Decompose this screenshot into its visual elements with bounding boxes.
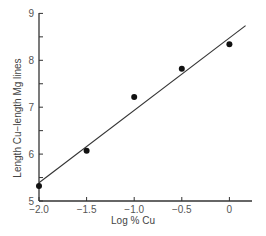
x-tick-label: 0	[227, 204, 233, 215]
y-tick-label: 8	[28, 55, 34, 66]
data-point	[36, 183, 42, 189]
y-ticks: 56789	[28, 8, 43, 207]
x-tick-label: −2.0	[29, 204, 49, 215]
x-tick-label: −1.5	[77, 204, 97, 215]
data-point	[131, 94, 137, 100]
data-point	[179, 66, 185, 72]
x-tick-label: −0.5	[172, 204, 192, 215]
axes	[39, 13, 252, 201]
x-tick-label: −1.0	[124, 204, 144, 215]
fit-line	[39, 26, 246, 183]
x-axis-label: Log % Cu	[111, 215, 155, 226]
x-ticks: −2.0−1.5−1.0−0.50	[29, 197, 232, 215]
y-tick-label: 9	[28, 8, 34, 19]
y-tick-label: 6	[28, 149, 34, 160]
data-points	[36, 41, 232, 189]
chart: 56789 −2.0−1.5−1.0−0.50 Log % Cu Length …	[0, 0, 266, 236]
regression-line	[39, 26, 246, 183]
y-tick-label: 7	[28, 102, 34, 113]
data-point	[226, 41, 232, 47]
y-axis-label: Length Cu−length Mg lines	[12, 58, 23, 177]
data-point	[84, 148, 90, 154]
